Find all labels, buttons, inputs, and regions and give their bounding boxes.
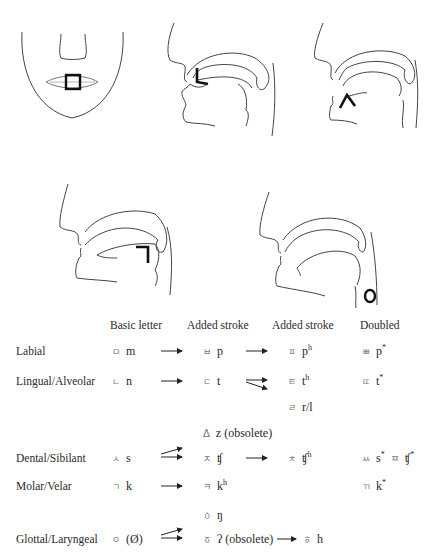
head-profile-icon [305, 18, 425, 138]
velar-nasal-cell: ㆁŋ [203, 508, 223, 523]
tense-superscript: * [381, 450, 385, 459]
aspiration-superscript: h [308, 343, 312, 352]
siot-mark-icon [340, 95, 355, 108]
ipa-value: p [217, 344, 223, 358]
hangul-glyph: ㄴ [112, 377, 120, 387]
ipa-value: n [126, 374, 132, 388]
row-label: Dental/Sibilant [16, 451, 86, 465]
row-label: Molar/Velar [16, 479, 72, 493]
ipa-value: t [217, 374, 220, 388]
added-stroke-2-cell: ㅊʧh [288, 451, 312, 466]
hangul-glyph: ㅇ [112, 535, 120, 545]
hangul-glyph: ㄸ [362, 377, 370, 387]
hangul-glyph: ㅍ [288, 347, 296, 357]
ipa-value: k [126, 479, 132, 493]
head-profile-icon [160, 18, 280, 138]
labial-face-diagram [15, 25, 130, 125]
glottal-sagittal-diagram [255, 190, 385, 310]
hangul-glyph: ㅃ [362, 347, 370, 357]
tense-superscript: * [410, 450, 414, 459]
tense-superscript: * [382, 343, 386, 352]
hangul-glyph: ㅆ [362, 454, 370, 464]
hangul-glyph: ㅈ [203, 454, 211, 464]
hangul-glyph: ㆆ [203, 535, 211, 545]
arrow-right-icon [160, 346, 186, 356]
ipa-value: ʔ (obsolete) [217, 532, 273, 546]
aspiration-superscript: h [223, 478, 227, 487]
basic-letter-cell: ㄱk [112, 479, 132, 494]
basic-letter-cell: ㄴn [112, 374, 132, 389]
alveolar-sagittal-diagram [160, 18, 280, 138]
hangul-glyph: ㅂ [203, 347, 211, 357]
hangul-glyph: ㄱ [112, 482, 120, 492]
row-label: Labial [16, 344, 45, 358]
added-stroke-cell: ㆆʔ (obsolete) [203, 532, 273, 547]
ipa-value: ŋ [217, 508, 223, 522]
ipa-value: ʧ [217, 451, 223, 465]
added-stroke-cell: ㅈʧ [203, 451, 223, 466]
hangul-glyph: ㅅ [112, 454, 120, 464]
arrow-right-icon [245, 453, 271, 463]
hangul-glyph: ㄷ [203, 377, 211, 387]
aspiration-superscript: h [305, 373, 309, 382]
header-doubled: Doubled [360, 318, 400, 332]
added-stroke-cell: ㅂp [203, 344, 223, 359]
hangul-glyph: ㅊ [288, 454, 296, 464]
added-stroke-2-cell: ㅍph [288, 344, 312, 359]
split-arrow-icon [245, 374, 271, 392]
velar-sagittal-diagram [55, 182, 180, 297]
ipa-value: z (obsolete) [216, 426, 272, 440]
face-front-icon [15, 25, 130, 125]
tense-superscript: * [379, 373, 383, 382]
added-stroke-2-cell: ㅌth [288, 374, 309, 389]
arrow-right-icon [160, 481, 186, 491]
tense-superscript: * [382, 478, 386, 487]
head-profile-icon [55, 182, 180, 297]
added-stroke-2-cell: ㅎh [303, 532, 323, 547]
arrow-right-icon [245, 346, 271, 356]
ipa-value: m [126, 344, 135, 358]
ipa-value: h [317, 532, 323, 546]
sibilant-sagittal-diagram [305, 18, 425, 138]
arrow-right-icon [276, 534, 300, 544]
ieung-mark-icon [365, 290, 375, 302]
doubled-cell: ㄸt* [362, 374, 383, 389]
basic-letter-cell: ㅇ(Ø) [112, 532, 143, 547]
header-added-stroke-2: Added stroke [272, 318, 334, 332]
hangul-glyph: ㄲ [362, 482, 370, 492]
arrow-right-icon [160, 376, 186, 386]
hangul-glyph: ㅋ [203, 482, 211, 492]
added-stroke-cell: ㄷt [203, 374, 220, 389]
doubled-cell: ㅆs*ㅉʧ* [362, 451, 414, 466]
header-added-stroke-1: Added stroke [187, 318, 249, 332]
hangul-glyph: ㅌ [288, 377, 296, 387]
obsolete-z-cell: Δz (obsolete) [203, 426, 272, 441]
ipa-value: s [126, 451, 131, 465]
hangul-glyph: ㅎ [303, 535, 311, 545]
split-arrow-icon [160, 446, 186, 462]
row-label: Lingual/Alveolar [16, 374, 95, 388]
aspiration-superscript: h [308, 450, 312, 459]
liquid-cell: ㄹr/l [288, 400, 313, 415]
basic-letter-cell: ㅅs [112, 451, 131, 466]
hangul-glyph: ㅉ [391, 454, 399, 464]
basic-letter-cell: ㅁm [112, 344, 135, 359]
head-profile-icon [255, 190, 385, 310]
giyeok-mark-icon [136, 247, 148, 263]
row-label: Glottal/Laryngeal [16, 532, 98, 546]
split-arrow-icon [160, 527, 186, 543]
hangul-glyph: ㅁ [112, 347, 120, 357]
doubled-cell: ㄲk* [362, 479, 386, 494]
ipa-value: (Ø) [126, 532, 143, 546]
ipa-value: r/l [302, 400, 313, 414]
hangul-glyph: Δ [203, 428, 210, 439]
hangul-glyph: ㄹ [288, 403, 296, 413]
header-basic-letter: Basic letter [110, 318, 162, 332]
hangul-glyph: ㆁ [203, 511, 211, 521]
added-stroke-cell: ㅋkh [203, 479, 227, 494]
doubled-cell: ㅃp* [362, 344, 386, 359]
